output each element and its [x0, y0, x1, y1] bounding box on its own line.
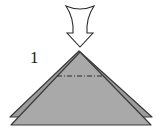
- origami-diagram: 1: [0, 0, 161, 132]
- diagram-canvas: [0, 0, 161, 132]
- push-arrow-icon: [66, 6, 94, 47]
- step-number: 1: [30, 49, 39, 66]
